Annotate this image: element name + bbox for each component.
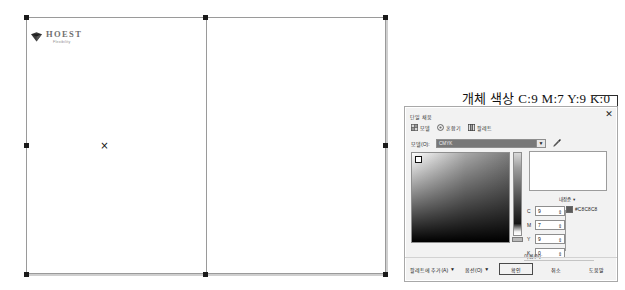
mode-tab-mixer-label: 혼합기: [446, 124, 461, 131]
document-canvas[interactable]: HOEST Flexibility ×: [0, 0, 415, 290]
model-dropdown-row[interactable]: 모델(O): CMYK ▼: [411, 138, 562, 148]
selection-handle-bottom-right[interactable]: [383, 272, 388, 277]
chevron-down-icon[interactable]: ▼: [484, 266, 489, 272]
chevron-down-icon[interactable]: ▾: [573, 197, 575, 202]
ok-button[interactable]: 확인: [499, 263, 533, 275]
hex-readout[interactable]: #C8C8C8: [566, 206, 597, 213]
selection-handle-bottom-left[interactable]: [24, 272, 29, 277]
stepper-c[interactable]: ⇕: [557, 208, 563, 216]
page-spread[interactable]: [26, 17, 386, 274]
cmyk-row-c[interactable]: C 9 ⇕: [527, 205, 565, 216]
stepper-m[interactable]: ⇕: [557, 222, 563, 230]
mode-tab-model-label: 모델: [420, 124, 430, 131]
selection-handle-top-center[interactable]: [203, 15, 208, 20]
brightness-slider-track[interactable]: [513, 152, 522, 236]
cmyk-row-y[interactable]: Y 9 ⇕: [527, 233, 565, 244]
dialog-footer[interactable]: 팔레트에 추가(A) ▼ 옵션(O) ▼ 확인 취소 도움말: [405, 257, 617, 281]
brightness-slider-knob[interactable]: [512, 237, 523, 242]
eyedropper-icon[interactable]: [552, 138, 562, 148]
page-shadow-bottom: [28, 274, 388, 276]
add-to-palette-label: 팔레트에 추가(A): [410, 266, 448, 273]
palette-icon: [468, 124, 475, 131]
color-gradient-field[interactable]: [411, 152, 510, 243]
cmyk-label-y: Y: [527, 236, 535, 242]
selection-handle-mid-right[interactable]: [383, 143, 388, 148]
color-mode-tabs[interactable]: 모델 혼합기 팔레트: [411, 124, 492, 131]
cmyk-label-c: C: [527, 208, 535, 214]
page-fold-divider: [206, 18, 207, 273]
gradient-cursor-handle[interactable]: [415, 156, 422, 163]
chevron-down-icon[interactable]: ▼: [536, 140, 545, 147]
cmyk-row-m[interactable]: M 7 ⇕: [527, 219, 565, 230]
help-button[interactable]: 도움말: [579, 263, 613, 275]
color-picker-dialog[interactable]: ✕ 단일 채움 모델 혼합기: [404, 106, 618, 282]
document-logo[interactable]: HOEST Flexibility: [30, 30, 82, 44]
selection-handle-mid-left[interactable]: [24, 143, 29, 148]
model-grid-icon: [411, 124, 418, 131]
cmyk-value-y: 9: [536, 236, 541, 242]
annotation-leader-line: [592, 95, 618, 96]
hex-swatch: [566, 206, 573, 213]
cancel-button[interactable]: 취소: [539, 263, 573, 275]
mode-tab-palette[interactable]: 팔레트: [468, 124, 492, 131]
chevron-down-icon[interactable]: ▼: [450, 266, 455, 272]
options-button[interactable]: 옵션(O) ▼: [465, 266, 489, 273]
selection-handle-top-left[interactable]: [24, 15, 29, 20]
model-dropdown[interactable]: CMYK ▼: [436, 139, 546, 148]
cmyk-label-m: M: [527, 222, 535, 228]
selection-handle-bottom-center[interactable]: [203, 272, 208, 277]
reference-dropdown[interactable]: 내장준 ▾: [559, 196, 575, 202]
hex-value: #C8C8C8: [575, 207, 597, 212]
cmyk-value-m: 7: [536, 222, 541, 228]
cmyk-input-y[interactable]: 9 ⇕: [535, 234, 565, 244]
gem-icon: [30, 30, 43, 43]
logo-tagline: Flexibility: [53, 41, 82, 45]
logo-wordmark: HOEST: [46, 30, 82, 39]
dialog-section-title: 단일 채움: [410, 113, 432, 120]
cmyk-input-m[interactable]: 7 ⇕: [535, 220, 565, 230]
stepper-y[interactable]: ⇕: [557, 236, 563, 244]
options-label: 옵션(O): [465, 266, 482, 273]
color-preview-swatch: [529, 151, 607, 191]
model-dropdown-label: 모델(O):: [411, 140, 433, 147]
selection-center-marker[interactable]: ×: [100, 141, 109, 150]
cmyk-input-c[interactable]: 9 ⇕: [535, 206, 565, 216]
close-icon[interactable]: ✕: [604, 109, 614, 119]
add-to-palette-button[interactable]: 팔레트에 추가(A) ▼: [410, 266, 455, 273]
mixer-circle-icon: [437, 124, 444, 131]
model-dropdown-value: CMYK: [437, 141, 452, 146]
annotation-title: 개체 색상 C:9 M:7 Y:9 K:0: [462, 88, 610, 107]
mode-tab-mixer[interactable]: 혼합기: [437, 124, 461, 131]
mode-tab-palette-label: 팔레트: [477, 124, 492, 131]
cmyk-value-c: 9: [536, 208, 541, 214]
reference-dropdown-label: 내장준: [559, 196, 571, 202]
mode-tab-model[interactable]: 모델: [411, 124, 430, 131]
selection-handle-top-right[interactable]: [383, 15, 388, 20]
